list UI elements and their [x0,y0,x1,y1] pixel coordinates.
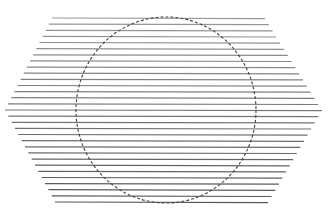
horizontal-line [5,110,322,111]
horizontal-line [43,36,277,37]
horizontal-line [30,61,292,62]
horizontal-line [18,135,307,136]
horizontal-line [38,171,286,172]
horizontal-line [52,18,265,19]
illusion-figure [0,0,335,222]
horizontal-line [14,92,310,93]
illusion-svg [0,0,335,222]
horizontal-line [8,104,318,105]
horizontal-line [33,55,288,56]
horizontal-line [11,98,314,99]
horizontal-line [35,165,290,166]
horizontal-line [22,141,304,142]
horizontal-line [55,202,268,203]
horizontal-line [48,190,275,191]
horizontal-line [24,73,299,74]
horizontal-line [8,116,318,117]
horizontal-line [40,43,281,44]
horizontal-line [36,49,284,50]
horizontal-line [18,86,307,87]
horizontal-lines-group [5,18,322,203]
horizontal-line [27,67,296,68]
horizontal-line [21,79,303,80]
horizontal-line [46,30,273,31]
horizontal-line [45,184,279,185]
horizontal-line [52,196,272,197]
horizontal-line [12,122,315,123]
horizontal-line [25,147,300,148]
horizontal-line [49,24,269,25]
horizontal-line [28,153,297,154]
horizontal-line [15,128,311,129]
horizontal-line [42,178,283,179]
horizontal-line [32,159,294,160]
